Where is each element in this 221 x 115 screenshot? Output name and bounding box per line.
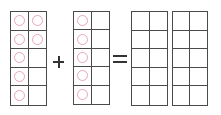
counter-circle-icon [77, 52, 88, 63]
ten-frame-cell [11, 49, 29, 68]
ten-frame-cell[interactable] [190, 49, 207, 68]
ten-frame-cell[interactable] [150, 86, 168, 105]
plus-vertical-bar [58, 56, 60, 68]
equals-top-bar [113, 55, 127, 57]
counter-circle-icon [77, 70, 88, 81]
ten-frame-cell[interactable] [132, 86, 150, 105]
ten-frame-cell [74, 67, 92, 85]
ten-frame-cell[interactable] [132, 12, 150, 31]
ten-frame-sum-2[interactable] [172, 11, 208, 106]
counter-circle-icon [77, 15, 88, 26]
counter-circle-icon [14, 71, 25, 82]
ten-frame-cell[interactable] [173, 31, 190, 50]
counter-circle-icon [14, 52, 25, 63]
counter-circle-icon [77, 89, 88, 100]
ten-frame-cell [74, 30, 92, 48]
equals-bottom-bar [113, 61, 127, 63]
ten-frame-cell [74, 49, 92, 67]
counter-circle-icon [14, 90, 25, 101]
ten-frame-cell [11, 12, 29, 31]
ten-frame-cell[interactable] [173, 86, 190, 105]
ten-frame-cell[interactable] [173, 12, 190, 31]
ten-frame-cell [92, 12, 110, 30]
ten-frame-cell[interactable] [132, 68, 150, 87]
counter-circle-icon [14, 34, 25, 45]
ten-frame-cell [92, 30, 110, 48]
counter-circle-icon [77, 34, 88, 45]
ten-frame-cell[interactable] [150, 12, 168, 31]
counter-circle-icon [32, 15, 43, 26]
ten-frame-cell[interactable] [132, 31, 150, 50]
ten-frame-cell [29, 12, 47, 31]
ten-frame-cell[interactable] [190, 12, 207, 31]
ten-frame-sum-1[interactable] [131, 11, 168, 106]
counter-circle-icon [14, 15, 25, 26]
ten-frame-cell [29, 68, 47, 87]
ten-frame-cell[interactable] [132, 49, 150, 68]
ten-frame-addend-2 [73, 11, 110, 105]
ten-frame-cell [11, 31, 29, 50]
ten-frame-cell [29, 86, 47, 105]
ten-frame-cell[interactable] [173, 49, 190, 68]
ten-frame-cell [92, 49, 110, 67]
ten-frame-cell [29, 49, 47, 68]
ten-frame-cell[interactable] [190, 31, 207, 50]
ten-frame-cell[interactable] [173, 68, 190, 87]
ten-frame-cell [74, 12, 92, 30]
ten-frame-cell[interactable] [150, 49, 168, 68]
ten-frame-cell [92, 67, 110, 85]
ten-frame-cell[interactable] [150, 68, 168, 87]
ten-frame-cell[interactable] [150, 31, 168, 50]
ten-frame-cell [11, 86, 29, 105]
ten-frame-cell [92, 86, 110, 104]
ten-frame-addend-1 [10, 11, 47, 106]
ten-frame-cell [29, 31, 47, 50]
ten-frame-cell[interactable] [190, 68, 207, 87]
ten-frame-cell [11, 68, 29, 87]
counter-circle-icon [32, 34, 43, 45]
ten-frame-cell[interactable] [190, 86, 207, 105]
ten-frame-cell [74, 86, 92, 104]
